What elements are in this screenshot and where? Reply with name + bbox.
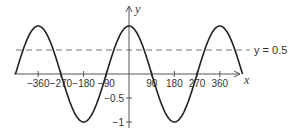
x-tick-label: 270 xyxy=(189,78,206,89)
y-tick-label: −0.5 xyxy=(104,93,124,104)
y-axis-label: y xyxy=(134,2,141,16)
x-tick-label: 360 xyxy=(211,78,228,89)
x-axis-label: x xyxy=(243,73,250,87)
axis-ticks: −360−270−180−9090180270360−0.5−1 xyxy=(27,71,229,128)
reference-line-label: y = 0.5 xyxy=(254,44,287,56)
x-tick-label: 180 xyxy=(166,78,183,89)
axes xyxy=(14,6,240,128)
x-tick-label: −270 xyxy=(50,78,73,89)
cosine-chart: −360−270−180−9090180270360−0.5−1 x y y =… xyxy=(0,0,300,132)
x-tick-label: −90 xyxy=(98,78,115,89)
y-tick-label: −1 xyxy=(113,117,125,128)
x-tick-label: −180 xyxy=(72,78,95,89)
x-tick-label: −360 xyxy=(27,78,50,89)
